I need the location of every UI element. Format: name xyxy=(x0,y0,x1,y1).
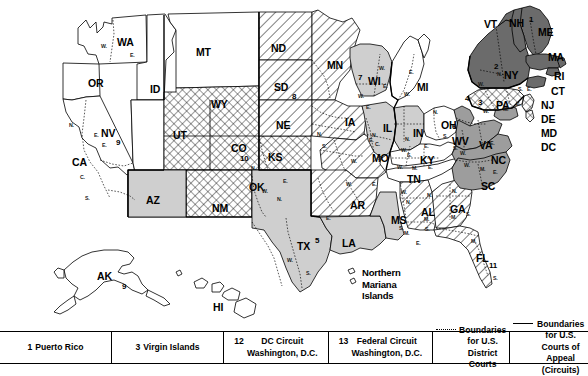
district-division-mark: E. xyxy=(372,182,377,187)
district-division-mark: M. xyxy=(404,231,409,236)
district-division-mark: C. xyxy=(375,142,380,147)
solid-line-swatch-icon xyxy=(513,323,533,324)
district-division-mark: W. xyxy=(101,44,107,49)
legend: 1Puerto Rico3Virgin Islands12DC CircuitW… xyxy=(0,331,588,364)
legend-label: Boundaries for U.S.District Courts xyxy=(459,325,506,371)
district-division-mark: W. xyxy=(287,258,293,263)
district-division-mark: S. xyxy=(453,146,458,151)
state-label-il: IL xyxy=(383,123,392,134)
district-division-mark: W. xyxy=(483,109,489,114)
district-division-mark: S. xyxy=(466,212,471,217)
district-division-mark: W. xyxy=(404,92,410,97)
state-label-nv: NV xyxy=(101,128,115,139)
district-division-mark: N. xyxy=(433,110,438,115)
legend-label-line: Virgin Islands xyxy=(143,342,199,354)
legend-number: 3 xyxy=(136,342,141,352)
district-division-mark: S. xyxy=(85,196,90,201)
state-label-me: ME xyxy=(538,27,553,38)
state-label-hi: HI xyxy=(213,302,223,313)
district-division-mark: N. xyxy=(427,193,432,198)
circuit-number: 1 xyxy=(529,16,533,24)
legend-label-line: District Courts xyxy=(459,348,506,371)
island-group-label: Northern Mariana Islands xyxy=(362,267,401,302)
state-label-id: ID xyxy=(150,84,160,95)
legend-number: 13 xyxy=(339,336,349,346)
legend-number: 1 xyxy=(27,342,32,352)
legend-item: 12DC CircuitWashington, D.C. xyxy=(224,332,329,363)
legend-label: Virgin Islands xyxy=(143,342,199,354)
district-division-mark: N. xyxy=(251,166,256,171)
district-division-mark: E. xyxy=(493,170,498,175)
state-label-dc: DC xyxy=(541,142,556,153)
state-label-ny: NY xyxy=(504,70,518,81)
district-division-mark: M. xyxy=(471,239,476,244)
legend-label-line: Puerto Rico xyxy=(35,342,83,354)
district-division-mark: W. xyxy=(401,190,407,195)
district-division-mark: N. xyxy=(497,72,502,77)
district-division-mark: M. xyxy=(480,167,485,172)
district-division-mark: E. xyxy=(428,165,433,170)
state-label-ut: UT xyxy=(173,130,187,141)
district-division-mark: W. xyxy=(464,163,470,168)
circuit-number: 4 xyxy=(465,95,469,103)
state-label-vt: VT xyxy=(484,19,497,30)
district-division-mark: M. xyxy=(412,166,417,171)
circuit-number: 3 xyxy=(478,99,482,107)
district-division-mark: M. xyxy=(503,107,508,112)
state-label-ak: AK xyxy=(97,271,112,282)
legend-label-line: DC Circuit xyxy=(247,336,318,348)
district-division-mark: M. xyxy=(451,215,456,220)
state-label-de: DE xyxy=(541,114,555,125)
circuit-number: 8 xyxy=(292,93,296,101)
district-division-mark: S. xyxy=(493,276,498,281)
legend-item: 1Puerto Rico xyxy=(0,332,112,363)
legend-label: Boundaries for U.S.Courts of Appeal (Cir… xyxy=(536,319,585,376)
state-label-tn: TN xyxy=(407,174,421,185)
state-label-ca: CA xyxy=(72,157,87,168)
state-label-ct: CT xyxy=(551,86,565,97)
district-division-mark: S. xyxy=(322,144,327,149)
district-division-mark: W. xyxy=(397,165,403,170)
district-division-mark: E. xyxy=(283,179,288,184)
state-label-ms: MS xyxy=(391,215,406,226)
district-division-mark: W. xyxy=(358,94,364,99)
district-division-mark: W. xyxy=(346,182,352,187)
district-division-mark: S. xyxy=(518,87,523,92)
legend-label: Puerto Rico xyxy=(35,342,83,354)
legend-item: 3Virgin Islands xyxy=(112,332,224,363)
legend-label: Federal CircuitWashington, D.C. xyxy=(351,336,422,359)
dotted-line-swatch-icon xyxy=(436,329,456,330)
district-division-mark: E. xyxy=(424,144,429,149)
district-division-mark: N. xyxy=(69,123,74,128)
state-label-ne: NE xyxy=(276,120,290,131)
circuit-number: 6 xyxy=(452,123,456,131)
state-label-ma: MA xyxy=(548,52,564,63)
legend-label-line: Boundaries for U.S. xyxy=(459,325,506,348)
state-label-ga: GA xyxy=(450,204,465,215)
state-label-in: IN xyxy=(413,128,423,139)
district-division-mark: E. xyxy=(383,84,388,89)
district-division-mark: E. xyxy=(416,241,421,246)
district-division-mark: W. xyxy=(262,189,268,194)
district-division-mark: E. xyxy=(516,102,521,107)
legend-item: 13Federal CircuitWashington, D.C. xyxy=(329,332,433,363)
district-division-mark: W. xyxy=(460,151,466,156)
district-division-mark: E. xyxy=(490,141,495,146)
state-label-mt: MT xyxy=(196,47,211,58)
state-label-fl: FL xyxy=(476,253,488,264)
map-area[interactable]: WAORIDMTNDSDNEMNWIIAMIWYNVUTCOKSCAAZNMOK… xyxy=(0,0,588,330)
circuit-number: 10 xyxy=(240,155,249,163)
district-division-mark: N. xyxy=(317,132,322,137)
state-label-nj: NJ xyxy=(541,100,554,111)
district-division-mark: E. xyxy=(369,138,374,143)
district-division-mark: E. xyxy=(326,216,331,221)
state-label-tx: TX xyxy=(297,241,310,252)
district-division-mark: W. xyxy=(351,159,357,164)
district-division-mark: E. xyxy=(94,133,99,138)
state-label-wa: WA xyxy=(117,37,134,48)
circuit-number: 2 xyxy=(494,63,498,71)
state-label-nc: NC xyxy=(491,155,506,166)
district-division-mark: W. xyxy=(379,66,385,71)
district-division-mark: N. xyxy=(405,137,410,142)
